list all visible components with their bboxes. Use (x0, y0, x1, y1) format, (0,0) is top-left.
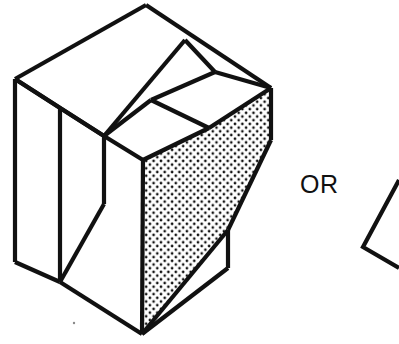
edge-front-vertical (142, 160, 143, 334)
isometric-figure (0, 0, 399, 344)
or-label: OR (300, 172, 339, 197)
face-left-front (60, 108, 143, 334)
paper-speck (73, 322, 75, 324)
face-left-side (15, 79, 60, 282)
drawing-canvas: OR (0, 0, 399, 344)
clipped-chevron-shape (363, 180, 399, 268)
